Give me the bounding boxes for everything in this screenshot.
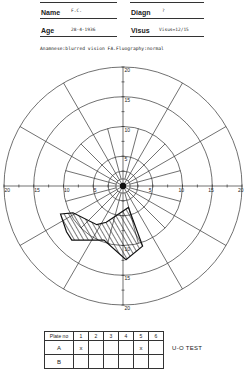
visual-field-chart: 510152010152051015205101520	[0, 0, 244, 379]
svg-text:10: 10	[125, 127, 131, 133]
table-row: B	[45, 355, 164, 369]
table-cell	[149, 355, 164, 369]
table-row: A x x	[45, 341, 164, 355]
svg-text:15: 15	[34, 187, 40, 193]
col-header: 3	[104, 332, 119, 341]
plates-table: Plate no 1 2 3 4 5 6 A x x B	[44, 331, 164, 369]
table-cell: x	[74, 341, 89, 355]
svg-text:15: 15	[125, 97, 131, 103]
col-header: 2	[89, 332, 104, 341]
col-header: 5	[134, 332, 149, 341]
table-cell	[119, 355, 134, 369]
svg-text:20: 20	[125, 67, 131, 73]
svg-text:15: 15	[125, 275, 131, 281]
plate-no-header: Plate no	[45, 332, 74, 341]
svg-text:5: 5	[149, 187, 152, 193]
table-cell	[134, 355, 149, 369]
table-cell: x	[134, 341, 149, 355]
table-cell	[74, 355, 89, 369]
row-label: A	[45, 341, 74, 355]
col-header: 1	[74, 332, 89, 341]
test-label: U-O TEST	[172, 345, 202, 351]
svg-text:10: 10	[64, 187, 70, 193]
col-header: 6	[149, 332, 164, 341]
svg-text:5: 5	[125, 156, 128, 162]
scotoma-region	[61, 207, 143, 259]
svg-text:5: 5	[94, 187, 97, 193]
svg-text:15: 15	[208, 187, 214, 193]
col-header: 4	[119, 332, 134, 341]
table-cell	[104, 341, 119, 355]
table-cell	[104, 355, 119, 369]
svg-text:20: 20	[238, 187, 244, 193]
fixation-point	[120, 183, 126, 189]
svg-text:10: 10	[179, 187, 185, 193]
table-cell	[149, 341, 164, 355]
plates-header-row: Plate no 1 2 3 4 5 6	[45, 332, 164, 341]
svg-text:20: 20	[125, 305, 131, 311]
svg-text:20: 20	[5, 187, 11, 193]
table-cell	[89, 355, 104, 369]
row-label: B	[45, 355, 74, 369]
table-cell	[119, 341, 134, 355]
axis-tick-labels: 510152010152051015205101520	[5, 67, 244, 311]
table-cell	[89, 341, 104, 355]
